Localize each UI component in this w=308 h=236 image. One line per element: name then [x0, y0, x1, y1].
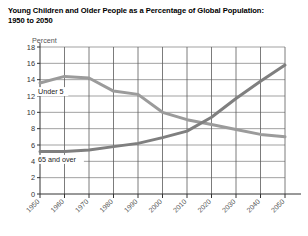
y-axis-tick-label: 10 [27, 108, 35, 117]
y-axis-tick-label: 14 [27, 75, 35, 84]
y-axis-tick-labels: 024681012141618 [27, 43, 40, 199]
x-axis-tick-label: 2010 [172, 198, 188, 214]
chart-container: 024681012141618 195019601970198019902000… [0, 0, 308, 236]
y-axis-tick-label: 0 [31, 190, 35, 199]
x-axis-tick-label: 1970 [74, 198, 90, 214]
gridlines [40, 47, 285, 194]
x-axis-tick-label: 2050 [270, 198, 286, 214]
x-axis-tick-label: 2040 [245, 198, 261, 214]
x-axis-tick-label: 1980 [98, 198, 114, 214]
y-axis-tick-label: 8 [31, 124, 35, 133]
series-label: 65 and over [38, 155, 77, 164]
x-axis-tick-label: 1950 [25, 198, 41, 214]
y-axis-tick-label: 16 [27, 59, 35, 68]
x-axis-tick-label: 1960 [49, 198, 65, 214]
y-axis-tick-label: 12 [27, 92, 35, 101]
x-axis-ticks [40, 194, 285, 198]
x-axis-tick-label: 2030 [221, 198, 237, 214]
line-chart: 024681012141618 195019601970198019902000… [0, 0, 308, 236]
y-axis-tick-label: 2 [31, 173, 35, 182]
axis-lines [40, 43, 301, 194]
x-axis-tick-label: 2000 [147, 198, 163, 214]
y-axis-tick-label: 18 [27, 43, 35, 52]
x-axis-tick-label: 1990 [123, 198, 139, 214]
y-axis-tick-label: 4 [31, 157, 35, 166]
series-label: Under 5 [38, 87, 64, 96]
x-axis-tick-label: 2020 [196, 198, 212, 214]
x-axis-tick-labels: 1950196019701980199020002010202020302040… [25, 198, 286, 214]
y-axis-tick-label: 6 [31, 141, 35, 150]
